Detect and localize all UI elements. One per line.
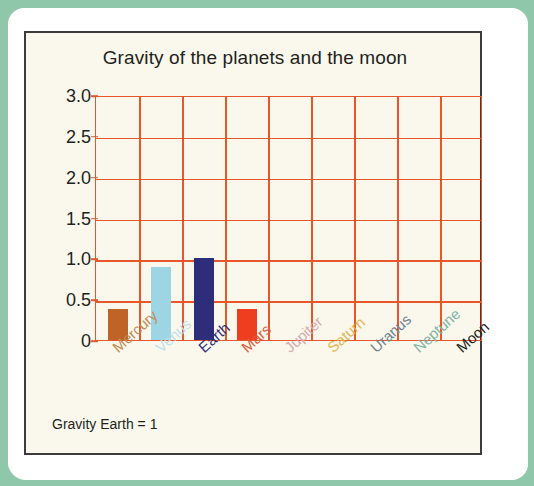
page-root: Gravity of the planets and the moon 00.5… [0,0,534,486]
gridline-horizontal [96,138,481,140]
plot-area [95,96,482,341]
y-axis-tick-label: 2.0 [35,167,91,188]
chart-footnote: Gravity Earth = 1 [52,416,157,432]
y-axis-tick-label: 0 [35,331,91,352]
gridline-vertical [311,97,313,340]
y-axis-tick-label: 0.5 [35,290,91,311]
gridline-vertical [268,97,270,340]
chart-panel: Gravity of the planets and the moon 00.5… [24,31,482,455]
gridline-vertical [440,97,442,340]
white-card-bottom-cover [8,462,528,476]
chart-title: Gravity of the planets and the moon [26,47,484,69]
y-axis-tick-label: 3.0 [35,86,91,107]
gridline-vertical [139,97,141,340]
gridline-vertical [354,97,356,340]
y-axis: 00.51.01.52.02.53.0 [29,96,91,341]
gridline-vertical [225,97,227,340]
gridline-vertical [182,97,184,340]
y-axis-tick-label: 1.5 [35,208,91,229]
gridline-horizontal [96,260,481,262]
y-axis-tick-label: 2.5 [35,126,91,147]
gridline-horizontal [96,179,481,181]
y-axis-tick-label: 1.0 [35,249,91,270]
gridline-horizontal [96,220,481,222]
gridline-vertical [397,97,399,340]
